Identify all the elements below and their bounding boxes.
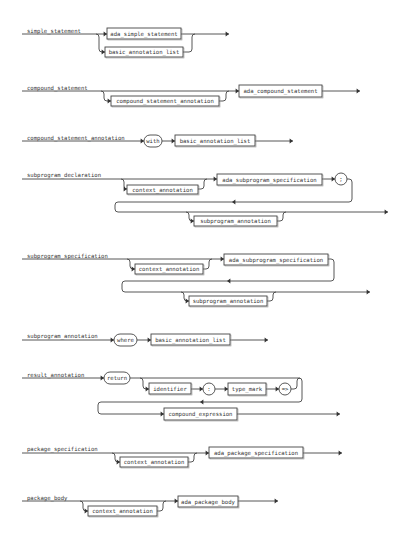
rule-simple-statement: simple_statementada_simple_statementbasi…	[22, 28, 229, 58]
node-label: ;	[339, 176, 342, 182]
arrow-right-icon	[206, 450, 209, 455]
arrow-right-icon	[148, 337, 151, 342]
connector-line	[277, 212, 286, 221]
rule-compound-statement-annotation: compound_statement_annotationwithbasic_a…	[22, 135, 293, 147]
arrow-right-icon	[172, 138, 175, 143]
connector-line	[186, 212, 194, 221]
terminal--[interactable]: :	[203, 383, 215, 395]
node-label: ada_package_specification	[214, 450, 298, 457]
node-label: context_annotation	[132, 187, 193, 194]
node-label: identifier	[153, 386, 187, 392]
nonterminal-ada-compound-statement[interactable]: ada_compound_statement	[239, 85, 323, 98]
nonterminal-context-annotation[interactable]: context_annotation	[120, 457, 189, 468]
arrow-right-icon	[124, 186, 127, 191]
arrow-right-icon	[141, 138, 144, 143]
arrow-right-icon	[290, 138, 293, 143]
connector-line	[181, 292, 189, 301]
node-label: ada_package_body	[181, 499, 236, 506]
connector-line	[219, 91, 229, 101]
nonterminal-context-annotation[interactable]: context_annotation	[88, 506, 158, 517]
arrow-right-icon	[102, 49, 105, 54]
arrow-right-icon	[236, 88, 239, 93]
connector-line	[203, 259, 212, 269]
arrow-right-icon	[161, 411, 164, 416]
arrow-left-icon	[200, 399, 203, 404]
nonterminal-ada-subprogram-specification[interactable]: ada_subprogram_specification	[224, 254, 329, 266]
arrow-left-icon	[227, 278, 230, 283]
node-label: ada_compound_statement	[243, 88, 317, 95]
arrow-right-icon	[214, 176, 217, 181]
rule-result-annotation: result_annotationreturnidentifier:type_m…	[22, 372, 340, 421]
terminal-return[interactable]: return	[104, 372, 130, 384]
nonterminal-context-annotation[interactable]: context_annotation	[127, 185, 199, 195]
rule-name-label: package_specification	[27, 446, 98, 453]
node-label: compound_statement_annotation	[116, 98, 214, 105]
nonterminal-subprogram-annotation[interactable]: subprogram_annotation	[194, 216, 278, 227]
terminal-where[interactable]: where	[114, 334, 137, 346]
node-label: basic_annotation_list	[155, 337, 226, 344]
node-label: with	[146, 138, 159, 144]
arrow-right-icon	[132, 266, 135, 271]
connector-line	[101, 91, 111, 101]
arrow-right-icon	[200, 386, 203, 391]
connector-line	[291, 378, 300, 389]
node-label: context_annotation	[92, 508, 153, 515]
nonterminal-basic-annotation-list[interactable]: basic_annotation_list	[105, 47, 184, 58]
node-label: compound_expression	[169, 411, 233, 418]
nonterminal-context-annotation[interactable]: context_annotation	[135, 264, 204, 275]
arrow-right-icon	[357, 88, 360, 93]
arrow-right-icon	[367, 289, 370, 294]
nonterminal-ada-package-specification[interactable]: ada_package_specification	[209, 447, 304, 459]
arrow-right-icon	[225, 386, 228, 391]
arrow-right-icon	[85, 508, 88, 513]
nonterminal-basic-annotation-list[interactable]: basic_annotation_list	[175, 135, 256, 147]
nonterminal-compound-expression[interactable]: compound_expression	[164, 408, 238, 421]
arrow-right-icon	[332, 176, 335, 181]
arrow-right-icon	[175, 498, 178, 503]
rule-compound-statement: compound_statementcompound_statement_ann…	[22, 85, 360, 107]
rule-name-label: subprogram_declaration	[27, 172, 101, 179]
node-label: ada_subprogram_specification	[222, 177, 316, 184]
node-label: :	[207, 386, 210, 392]
nonterminal-compound-statement-annotation[interactable]: compound_statement_annotation	[111, 96, 220, 107]
terminal--[interactable]: ;	[335, 173, 347, 185]
rule-subprogram-annotation: subprogram_annotationwherebasic_annotati…	[22, 333, 268, 346]
arrow-right-icon	[186, 298, 189, 303]
connector-line	[112, 453, 120, 462]
arrow-right-icon	[104, 31, 107, 36]
terminal-with[interactable]: with	[144, 135, 162, 147]
connector-line	[198, 179, 207, 189]
rule-package-specification: package_specificationcontext_annotationa…	[22, 446, 342, 468]
node-label: ada_subprogram_specification	[229, 257, 323, 264]
arrow-right-icon	[101, 375, 104, 380]
connector-line	[157, 501, 166, 511]
nonterminal-ada-package-body[interactable]: ada_package_body	[178, 496, 239, 508]
rule-subprogram-declaration: subprogram_declarationcontext_annotation…	[22, 172, 388, 227]
arrow-right-icon	[226, 31, 229, 36]
syntax-diagram-canvas: simple_statementada_simple_statementbasi…	[0, 0, 408, 544]
nonterminal-type-mark[interactable]: type_mark	[228, 383, 267, 396]
node-label: where	[117, 337, 134, 343]
arrow-left-icon	[232, 199, 235, 204]
connector-line	[96, 34, 105, 52]
nonterminal-ada-simple-statement[interactable]: ada_simple_statement	[107, 28, 182, 40]
arrow-right-icon	[275, 498, 278, 503]
terminal--[interactable]: =>	[279, 383, 291, 395]
connector-line	[140, 378, 149, 389]
arrow-right-icon	[191, 218, 194, 223]
nonterminal-identifier[interactable]: identifier	[149, 383, 192, 395]
arrow-right-icon	[265, 337, 268, 342]
node-label: basic_annotation_list	[109, 49, 180, 56]
arrow-right-icon	[117, 459, 120, 464]
nonterminal-ada-subprogram-specification[interactable]: ada_subprogram_specification	[217, 174, 323, 186]
arrow-right-icon	[111, 337, 114, 342]
connector-line	[267, 292, 276, 301]
nonterminal-subprogram-annotation[interactable]: subprogram_annotation	[189, 296, 268, 307]
arrow-right-icon	[276, 386, 279, 391]
node-label: type_mark	[232, 386, 263, 393]
arrow-right-icon	[337, 411, 340, 416]
node-label: context_annotation	[124, 459, 185, 466]
rule-name-label: subprogram_annotation	[27, 333, 98, 340]
nonterminal-basic-annotation-list[interactable]: basic_annotation_list	[151, 334, 231, 346]
connector-line	[188, 453, 197, 462]
